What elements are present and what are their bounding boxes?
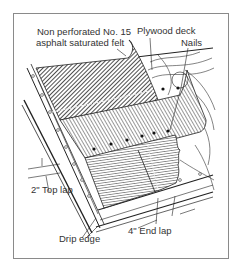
nails-label: Nails	[181, 38, 202, 48]
felt-label-line1: Non perforated No. 15	[37, 27, 131, 37]
top-lap-label: 2" Top lap	[31, 185, 73, 195]
plywood-deck-label: Plywood deck	[137, 26, 196, 36]
drip-edge-label: Drip edge	[59, 234, 100, 244]
end-lap-label: 4" End lap	[128, 226, 172, 236]
felt-label-line2: asphalt saturated felt	[36, 38, 124, 48]
deck-edge-line	[128, 48, 213, 58]
